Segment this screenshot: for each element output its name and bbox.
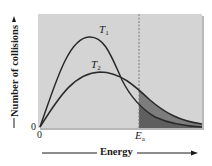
y-axis-label: Number of collisions [4,12,24,130]
t2-curve-label: T2 [91,59,101,72]
x-axis-arrowhead [191,151,198,156]
x-origin-label: 0 [37,130,42,140]
ea-label: Ea [135,130,145,143]
plot-area [38,14,202,128]
y-origin-label: 0 [31,122,36,132]
t1-curve-label: T1 [99,24,109,37]
x-axis-label: Energy [100,146,133,157]
